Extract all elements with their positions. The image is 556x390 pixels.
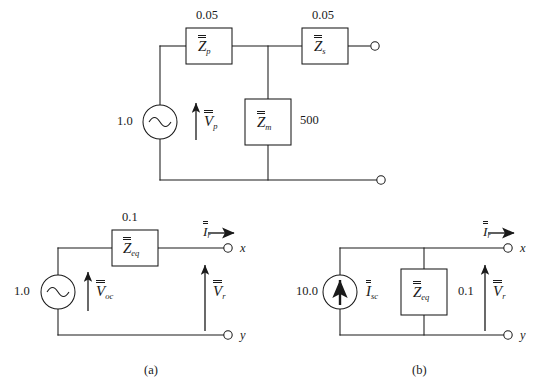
label-zp: Zp xyxy=(198,38,211,55)
zs-sub: s xyxy=(322,46,325,56)
vr-a-sub: r xyxy=(222,291,225,301)
zeq-b-sub: eq xyxy=(421,292,429,302)
value-zm: 500 xyxy=(300,114,319,127)
voc-sub: oc xyxy=(105,291,113,301)
label-zeq-a: Zeq xyxy=(123,240,139,257)
value-zs: 0.05 xyxy=(312,9,334,22)
value-zeq-b: 0.1 xyxy=(458,285,474,298)
terminal-a-y xyxy=(224,331,232,339)
zp-base: Z xyxy=(198,39,206,54)
label-ir-a: Ir xyxy=(203,223,210,240)
ir-a-base: I xyxy=(203,225,208,239)
vr-b-base: V xyxy=(493,284,502,299)
zs-base: Z xyxy=(314,39,322,54)
vp-sub: p xyxy=(213,121,217,131)
value-vp-source: 1.0 xyxy=(117,115,133,128)
terminal-b-x xyxy=(504,244,512,252)
vr-a-base: V xyxy=(213,284,222,299)
terminal-label-b-x: x xyxy=(520,242,526,255)
ir-b-base: I xyxy=(483,225,488,239)
value-zp: 0.05 xyxy=(196,9,218,22)
label-vp: Vp xyxy=(204,113,217,130)
zeq-b-base: Z xyxy=(413,285,421,300)
label-vr-b: Vr xyxy=(493,283,505,300)
zeq-a-sub: eq xyxy=(131,248,139,258)
label-vr-a: Vr xyxy=(213,283,225,300)
figure-canvas: 0.05 Zp 0.05 Zs Zm 500 1.0 Vp 0.1 Zeq 1.… xyxy=(0,0,556,390)
zp-sub: p xyxy=(206,46,210,56)
zm-sub: m xyxy=(265,122,271,132)
label-zs: Zs xyxy=(314,38,326,55)
label-zm: Zm xyxy=(257,114,271,131)
terminal-label-a-y: y xyxy=(240,329,246,342)
terminal-b-y xyxy=(504,331,512,339)
value-source-b: 10.0 xyxy=(296,285,318,298)
terminal-a-x xyxy=(224,244,232,252)
zeq-a-base: Z xyxy=(123,241,131,256)
label-isc: Isc xyxy=(366,283,378,300)
isc-sub: sc xyxy=(371,291,378,301)
label-zeq-b: Zeq xyxy=(413,284,429,301)
vr-b-sub: r xyxy=(502,291,505,301)
terminal-label-a-x: x xyxy=(240,242,246,255)
caption-a: (a) xyxy=(144,364,158,377)
value-zeq-a: 0.1 xyxy=(122,211,138,224)
terminal-bottom-right xyxy=(377,176,385,184)
value-source-a: 1.0 xyxy=(14,285,30,298)
label-voc: Voc xyxy=(96,283,113,300)
voc-base: V xyxy=(96,284,105,299)
label-ir-b: Ir xyxy=(483,223,490,240)
terminal-top-right xyxy=(371,42,379,50)
terminal-label-b-y: y xyxy=(520,329,526,342)
caption-b: (b) xyxy=(412,364,427,377)
vp-base: V xyxy=(204,114,213,129)
isc-base: I xyxy=(366,284,371,299)
circuit-drawing xyxy=(0,0,556,390)
zm-base: Z xyxy=(257,115,265,130)
